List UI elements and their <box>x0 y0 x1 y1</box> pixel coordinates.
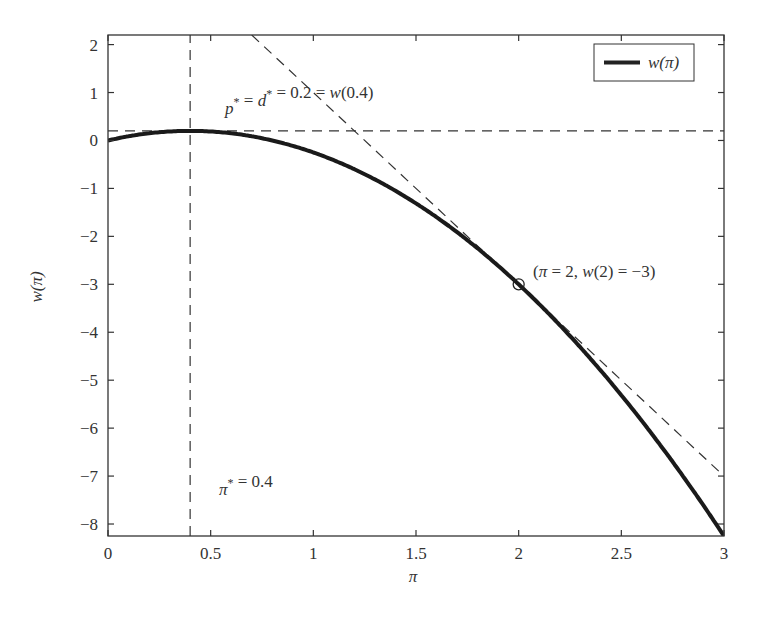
y-tick-label: 2 <box>90 36 99 55</box>
w-pi-curve <box>108 131 724 536</box>
legend-label: w(π) <box>648 53 680 72</box>
y-tick-label: −8 <box>80 515 98 534</box>
x-axis-label: π <box>409 567 418 586</box>
x-tick-label: 0.5 <box>200 544 221 563</box>
chart: 00.511.522.53210−1−2−3−4−5−6−7−8 w(π) π … <box>0 0 763 621</box>
y-tick-label: 1 <box>90 84 99 103</box>
annotation-1: (π = 2, w(2) = −3) <box>533 262 655 281</box>
y-tick-label: −4 <box>80 323 99 342</box>
axes: 00.511.522.53210−1−2−3−4−5−6−7−8 <box>80 35 728 563</box>
x-tick-label: 1.5 <box>405 544 426 563</box>
y-tick-label: −1 <box>80 179 98 198</box>
annotation-0: p* = d* = 0.2 = w(0.4) <box>224 83 373 118</box>
y-tick-label: −7 <box>80 467 99 486</box>
x-tick-label: 3 <box>720 544 729 563</box>
y-tick-label: −3 <box>80 275 98 294</box>
y-axis-label: w(π) <box>27 271 46 303</box>
annotation-2: π* = 0.4 <box>219 472 273 499</box>
y-tick-label: −6 <box>80 419 98 438</box>
x-tick-label: 2.5 <box>611 544 632 563</box>
x-tick-label: 1 <box>309 544 318 563</box>
y-tick-label: 0 <box>90 131 99 150</box>
y-tick-label: −5 <box>80 371 98 390</box>
axes-frame <box>108 35 724 536</box>
y-tick-label: −2 <box>80 227 98 246</box>
legend: w(π) <box>594 44 694 81</box>
plot-area <box>108 35 724 536</box>
x-tick-label: 2 <box>514 544 523 563</box>
x-tick-label: 0 <box>104 544 113 563</box>
